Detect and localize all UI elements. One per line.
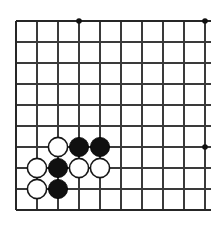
grid-lines — [16, 21, 211, 210]
black-stone-d4[interactable] — [69, 137, 88, 156]
star-point-center-right — [202, 144, 208, 150]
black-stone-e4[interactable] — [90, 137, 109, 156]
black-stone-c2[interactable] — [48, 179, 67, 198]
board-border — [16, 21, 211, 210]
black-stone-c3[interactable] — [48, 158, 67, 177]
white-stone-b2[interactable] — [27, 179, 46, 198]
goban-canvas — [0, 0, 224, 229]
star-point-top-right — [202, 18, 208, 24]
white-stone-e3[interactable] — [90, 158, 109, 177]
white-stone-b3[interactable] — [27, 158, 46, 177]
white-stone-d3[interactable] — [69, 158, 88, 177]
white-stone-c4[interactable] — [48, 137, 67, 156]
star-point-top-left — [76, 18, 82, 24]
go-board-diagram — [0, 0, 224, 229]
